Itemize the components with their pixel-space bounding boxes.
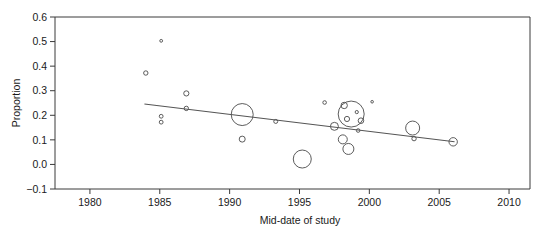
study-bubble <box>184 91 189 96</box>
y-tick-label: 0.4 <box>32 60 47 72</box>
y-axis-ticks: −0.10.00.10.20.30.40.50.6 <box>26 11 55 195</box>
study-bubble <box>371 100 374 103</box>
x-tick-label: 2000 <box>358 196 382 208</box>
y-tick-label: 0.5 <box>32 35 47 47</box>
x-tick-label: 1985 <box>148 196 172 208</box>
study-bubble <box>144 71 148 75</box>
y-tick-label: 0.6 <box>32 11 47 23</box>
x-axis-title: Mid-date of study <box>260 214 341 226</box>
bubble-markers <box>144 39 458 168</box>
x-tick-label: 1980 <box>78 196 102 208</box>
x-tick-label: 1990 <box>218 196 242 208</box>
y-tick-label: 0.1 <box>32 134 47 146</box>
y-tick-label: 0.0 <box>32 158 47 170</box>
study-bubble <box>323 101 327 105</box>
y-tick-label: 0.3 <box>32 84 47 96</box>
study-bubble <box>239 136 245 142</box>
study-bubble <box>344 116 349 121</box>
study-bubble <box>406 121 420 135</box>
x-axis-ticks: 1980198519901995200020052010 <box>78 189 521 208</box>
y-tick-label: 0.2 <box>32 109 47 121</box>
plot-canvas: −0.10.00.10.20.30.40.50.6 19801985199019… <box>0 0 548 234</box>
x-tick-label: 2010 <box>497 196 521 208</box>
x-tick-label: 1995 <box>288 196 312 208</box>
y-tick-label: −0.1 <box>26 183 47 195</box>
study-bubble <box>355 110 358 113</box>
study-bubble <box>159 120 163 124</box>
plot-frame <box>55 17 530 189</box>
scatter-plot-figure: −0.10.00.10.20.30.40.50.6 19801985199019… <box>0 0 548 234</box>
y-axis-title: Proportion <box>10 79 22 128</box>
study-bubble <box>293 150 311 168</box>
axis-frame <box>55 17 530 189</box>
study-bubble <box>343 143 354 154</box>
study-bubble <box>159 114 163 118</box>
study-bubble <box>160 39 163 42</box>
x-tick-label: 2005 <box>428 196 452 208</box>
study-bubble <box>338 135 347 144</box>
